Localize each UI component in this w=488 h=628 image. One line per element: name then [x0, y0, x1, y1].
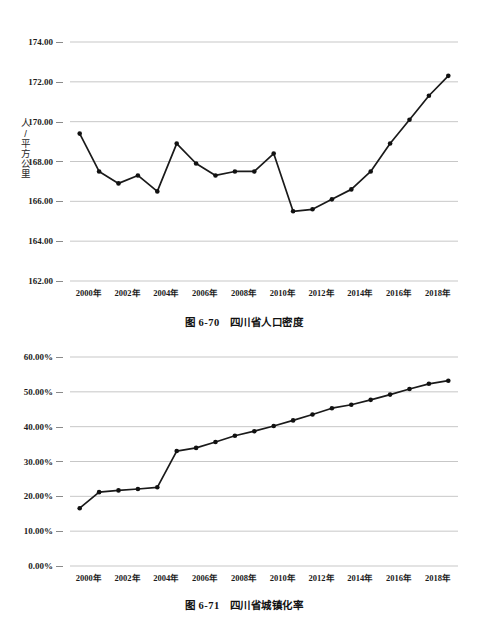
data-point: [136, 173, 141, 178]
x-axis-tick-label: 2006年: [192, 286, 218, 298]
x-axis-tick-label: 2010年: [270, 571, 296, 583]
data-point: [213, 440, 218, 445]
x-axis-tick-label: 2016年: [386, 286, 412, 298]
x-axis-tick-label: 2010年: [270, 286, 296, 298]
data-point: [427, 382, 432, 387]
y-axis-tick-mark: [56, 42, 63, 43]
y-axis-tick-mark: [56, 392, 63, 393]
data-series-line: [80, 381, 449, 508]
x-axis-tick-label: 2006年: [192, 571, 218, 583]
y-axis-tick-mark: [56, 461, 63, 462]
data-point: [330, 406, 335, 411]
data-point: [77, 131, 82, 136]
y-axis-tick-label: 50.00%: [8, 387, 63, 397]
data-point: [388, 392, 393, 397]
data-point: [233, 433, 238, 438]
y-axis-title: 人/平方公里: [18, 118, 32, 179]
y-axis-tick-mark: [56, 281, 63, 282]
y-axis-tick-mark: [56, 161, 63, 162]
caption-number: 图 6-71: [185, 600, 220, 611]
y-axis-tick-label: 166.00: [8, 196, 63, 206]
y-axis-tick-label: 10.00%: [8, 526, 63, 536]
y-axis-tick-label: 174.00: [8, 37, 63, 47]
document-page: 174.00172.00170.00168.00166.00164.00162.…: [0, 0, 488, 628]
data-series-line: [80, 76, 449, 211]
data-point: [136, 487, 141, 492]
data-point-markers: [77, 378, 450, 510]
gridlines: [70, 357, 458, 566]
data-point-markers: [77, 74, 450, 214]
y-axis-tick-label: 172.00: [8, 77, 63, 87]
figure-caption-6-70: 图 6-70四川省人口密度: [0, 314, 488, 329]
x-axis-tick-label: 2000年: [76, 571, 102, 583]
y-axis-tick-mark: [56, 241, 63, 242]
x-axis-tick-label: 2014年: [347, 286, 373, 298]
data-point: [155, 189, 160, 194]
data-point: [291, 209, 296, 214]
x-axis-tick-label: 2004年: [153, 571, 179, 583]
data-point: [368, 398, 373, 403]
x-axis-tick-label: 2012年: [309, 286, 335, 298]
x-axis-tick-label: 2004年: [153, 286, 179, 298]
y-axis-tick-mark: [56, 82, 63, 83]
data-point: [310, 412, 315, 417]
data-point: [252, 429, 257, 434]
y-axis-tick-mark: [56, 496, 63, 497]
data-point: [155, 485, 160, 490]
y-axis-tick-label: 168.00: [8, 157, 63, 167]
data-point: [252, 169, 257, 174]
x-axis-tick-label: 2008年: [231, 286, 257, 298]
y-axis-tick-label: 60.00%: [8, 352, 63, 362]
data-point: [330, 197, 335, 202]
data-point: [291, 418, 296, 423]
data-point: [97, 490, 102, 495]
x-axis-tick-label: 2008年: [231, 571, 257, 583]
data-point: [116, 488, 121, 493]
x-axis-tick-label: 2014年: [347, 571, 373, 583]
y-axis-tick-mark: [56, 122, 63, 123]
y-axis-tick-label: 0.00%: [8, 561, 63, 571]
data-point: [407, 387, 412, 392]
data-point: [271, 151, 276, 156]
y-axis-tick-label: 30.00%: [8, 457, 63, 467]
y-axis-tick-label: 162.00: [8, 276, 63, 286]
y-axis-tick-mark: [56, 531, 63, 532]
x-axis-tick-label: 2018年: [425, 286, 451, 298]
x-axis-tick-label: 2000年: [76, 286, 102, 298]
y-axis-tick-mark: [56, 427, 63, 428]
data-point: [174, 449, 179, 454]
y-axis-tick-label: 20.00%: [8, 491, 63, 501]
data-point: [349, 187, 354, 192]
data-point: [213, 173, 218, 178]
x-axis-tick-label: 2012年: [309, 571, 335, 583]
y-axis-tick-mark: [56, 201, 63, 202]
figure-caption-6-71: 图 6-71四川省城镇化率: [0, 597, 488, 612]
data-point: [174, 141, 179, 146]
data-point: [233, 169, 238, 174]
data-point: [116, 181, 121, 186]
data-point: [194, 446, 199, 451]
y-axis-tick-mark: [56, 357, 63, 358]
data-point: [427, 93, 432, 98]
data-point: [446, 378, 451, 383]
caption-number: 图 6-70: [185, 317, 220, 328]
x-axis-tick-label: 2002年: [115, 286, 141, 298]
gridlines: [70, 42, 458, 281]
data-point: [194, 161, 199, 166]
data-point: [349, 402, 354, 407]
x-axis-tick-label: 2016年: [386, 571, 412, 583]
y-axis-tick-label: 164.00: [8, 236, 63, 246]
data-point: [407, 117, 412, 122]
y-axis-tick-label: 170.00: [8, 117, 63, 127]
y-axis-tick-mark: [56, 566, 63, 567]
data-point: [77, 506, 82, 511]
y-axis-tick-label: 40.00%: [8, 422, 63, 432]
x-axis-tick-label: 2018年: [425, 571, 451, 583]
data-point: [388, 141, 393, 146]
caption-title: 四川省城镇化率: [230, 600, 304, 611]
data-point: [310, 207, 315, 212]
x-axis-tick-label: 2002年: [115, 571, 141, 583]
data-point: [271, 424, 276, 429]
caption-title: 四川省人口密度: [230, 317, 304, 328]
data-point: [446, 74, 451, 79]
